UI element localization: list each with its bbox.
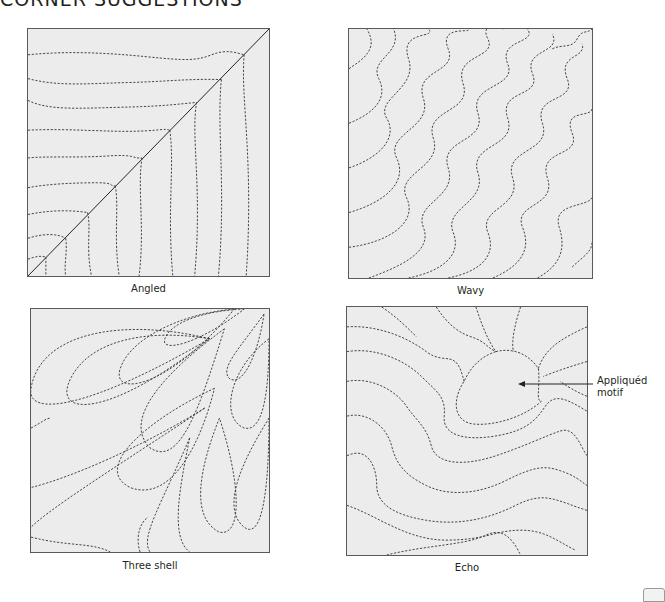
panel-echo [346,306,588,556]
caption-angled: Angled [27,283,270,294]
annotation-applique-motif: Appliquéd motif [597,375,647,399]
annotation-line1: Appliquéd [597,375,647,387]
arrow-icon [518,378,594,390]
annotation-line2: motif [597,387,647,399]
panel-wavy [348,28,593,279]
page-tab [643,588,665,602]
caption-three-shell: Three shell [30,560,270,571]
caption-wavy: Wavy [348,285,593,296]
panel-three-shell [30,308,270,553]
three-shell-quilting-diagram [31,309,269,552]
caption-echo: Echo [346,562,588,573]
angled-quilting-diagram [28,29,269,276]
echo-quilting-diagram [347,307,587,555]
panel-angled [27,28,270,277]
page-title: CORNER SUGGESTIONS [0,0,243,10]
wavy-quilting-diagram [349,29,592,278]
